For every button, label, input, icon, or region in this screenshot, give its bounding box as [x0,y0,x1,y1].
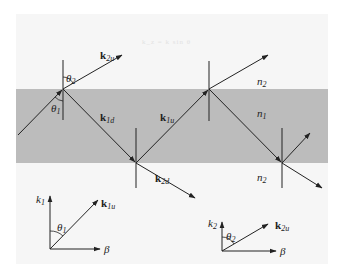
label-medium-n1: n1 [257,108,267,121]
inset-left-vector-label: k1u [101,198,115,211]
label-k1u: k1u [160,112,174,125]
inset-left-y-label: k1 [36,194,45,207]
inset-left-x-label: β [104,244,109,255]
diagram-svg [0,0,345,270]
label-k1d: k1d [100,112,114,125]
label-theta2: θ2 [66,73,75,86]
label-theta1: θ1 [51,103,60,116]
inset-right-x-label: β [280,246,285,257]
label-medium-n2-top: n2 [257,76,267,89]
transmitted-ray-k2d-2 [282,163,322,188]
label-k2u: k2u [100,50,114,63]
inset-left-angle-label: θ1 [57,222,66,235]
inset-right-angle-label: θ2 [226,231,235,244]
inset-right-y-label: k2 [208,218,217,231]
label-k2d: k2d [155,173,169,186]
inset-right-vector-label: k2u [275,220,289,233]
label-medium-n2-bottom: n2 [257,172,267,185]
waveguide-ray-diagram: k_z = k sin θ [0,0,345,270]
